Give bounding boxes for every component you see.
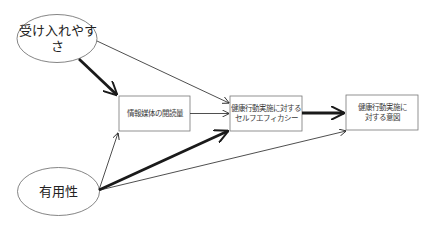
edge-usefulness-to-intention: [100, 131, 346, 190]
node-acceptability-label: 受け入れやすさ: [17, 27, 98, 51]
node-media-reading-label: 情報媒体の閲読量: [119, 96, 190, 131]
edge-usefulness-to-self-efficacy: [99, 131, 228, 190]
node-self-efficacy-label: 健康行動実施に対する セルフエフィカシー: [230, 96, 302, 131]
edge-acceptability-to-media-reading: [79, 59, 117, 95]
node-intention-label: 健康行動実施に 対する意図: [346, 95, 418, 130]
node-usefulness-label: 有用性: [18, 180, 99, 204]
